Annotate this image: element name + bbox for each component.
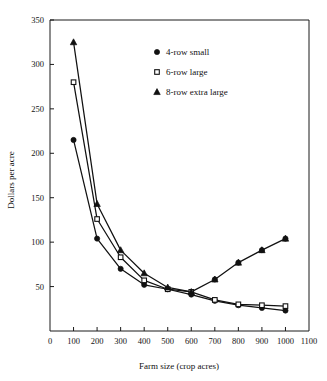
marker-filled-circle <box>71 137 76 142</box>
marker-filled-circle <box>212 277 217 282</box>
series-line-1 <box>74 82 286 306</box>
y-tick-label: 250 <box>31 104 44 114</box>
marker-open-square <box>260 303 265 308</box>
x-tick-label: 800 <box>232 336 245 346</box>
marker-open-square <box>213 298 218 303</box>
marker-open-square <box>71 80 76 85</box>
series-markers-2 <box>70 39 288 295</box>
marker-filled-circle <box>118 266 123 271</box>
x-tick-label: 1100 <box>301 336 318 346</box>
legend-item-label: 4-row small <box>166 47 210 57</box>
marker-filled-triangle <box>154 89 160 95</box>
marker-open-square <box>118 255 123 260</box>
marker-open-square <box>95 217 100 222</box>
marker-open-square <box>155 70 160 75</box>
marker-filled-circle <box>283 236 288 241</box>
x-tick-label: 600 <box>185 336 198 346</box>
marker-filled-triangle <box>70 39 76 45</box>
y-axis-tick-labels: 50100150200250300350 <box>31 15 44 292</box>
x-tick-label: 400 <box>138 336 151 346</box>
farm-size-cost-chart: 010020030040050060070080090010001100 501… <box>0 0 327 381</box>
marker-filled-circle <box>259 248 264 253</box>
x-tick-label: 0 <box>48 336 52 346</box>
legend-item-2: 8-row extra large <box>154 87 228 97</box>
chart-legend: 4-row small6-row large8-row extra large <box>154 47 228 97</box>
x-tick-label: 900 <box>256 336 269 346</box>
marker-open-square <box>236 302 241 307</box>
y-tick-label: 300 <box>31 59 44 69</box>
series-markers-1 <box>71 80 288 309</box>
chart-page: 010020030040050060070080090010001100 501… <box>0 0 327 381</box>
legend-item-label: 6-row large <box>166 67 208 77</box>
x-tick-label: 100 <box>67 336 80 346</box>
legend-item-0: 4-row small <box>154 47 209 57</box>
series-line-0 <box>74 140 286 311</box>
x-tick-label: 200 <box>91 336 104 346</box>
x-axis-title: Farm size (crop acres) <box>139 361 219 371</box>
x-axis-ticks <box>74 327 286 331</box>
x-axis-tick-labels: 010020030040050060070080090010001100 <box>48 336 317 346</box>
y-tick-label: 150 <box>31 193 44 203</box>
series-lines <box>74 42 286 310</box>
y-tick-label: 350 <box>31 15 44 25</box>
x-tick-label: 300 <box>114 336 127 346</box>
marker-filled-circle <box>236 260 241 265</box>
y-tick-label: 50 <box>36 282 45 292</box>
x-tick-label: 500 <box>161 336 174 346</box>
y-axis-ticks <box>50 20 54 287</box>
x-tick-label: 1000 <box>277 336 294 346</box>
series-markers <box>70 39 288 313</box>
y-tick-label: 200 <box>31 148 44 158</box>
legend-item-label: 8-row extra large <box>166 87 228 97</box>
marker-filled-circle <box>94 236 99 241</box>
x-tick-label: 700 <box>208 336 221 346</box>
marker-filled-circle <box>154 49 159 54</box>
y-axis-title: Dollars per acre <box>6 151 16 208</box>
series-markers-0 <box>71 137 288 313</box>
marker-filled-triangle <box>117 247 123 253</box>
series-line-2 <box>74 42 286 292</box>
y-tick-label: 100 <box>31 237 44 247</box>
marker-open-square <box>283 304 288 309</box>
legend-item-1: 6-row large <box>155 67 208 77</box>
marker-open-square <box>142 278 147 283</box>
